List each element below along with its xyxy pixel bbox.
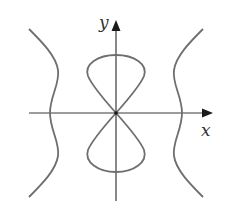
y-axis-arrow-icon [112,20,121,31]
x-axis-arrow-icon [202,109,213,118]
diagram-canvas [0,0,228,205]
y-axis-label: y [99,14,109,31]
x-axis [29,109,213,118]
origin-point [114,111,118,115]
x-axis-label: x [201,122,211,139]
curve-diagram: y x [0,0,228,205]
